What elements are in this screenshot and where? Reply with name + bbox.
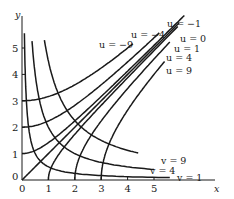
- label-v-1: v = 1: [176, 172, 202, 183]
- y-tick-label: 3: [12, 96, 18, 107]
- x-tick-label: 2: [72, 183, 78, 194]
- label-u-minus-1: u = −1: [167, 18, 201, 29]
- plot-area: 012345012345 x y u = −1 u = −4 u = −9 u …: [0, 0, 234, 199]
- y-axis-label: y: [14, 9, 21, 20]
- x-tick-label: 4: [125, 183, 131, 194]
- label-u-9: u = 9: [166, 65, 192, 76]
- x-axis-label: x: [214, 183, 220, 194]
- label-u-4: u = 4: [166, 52, 192, 63]
- x-tick-label: 5: [151, 183, 157, 194]
- y-tick-label: 0: [12, 171, 18, 182]
- label-v-4: v = 4: [149, 165, 175, 176]
- x-tick-label: 3: [98, 183, 104, 194]
- x-tick-label: 0: [19, 183, 25, 194]
- y-tick-label: 5: [12, 43, 18, 54]
- y-tick-label: 2: [12, 122, 18, 133]
- hyperbola-grid-figure: 012345012345 x y u = −1 u = −4 u = −9 u …: [0, 0, 234, 199]
- x-tick-label: 1: [45, 183, 51, 194]
- label-u-minus-4: u = −4: [131, 29, 165, 40]
- curve-u-9: [101, 62, 164, 181]
- label-u-minus-9: u = −9: [99, 39, 133, 50]
- y-tick-label: 1: [12, 149, 18, 160]
- y-tick-label: 4: [12, 69, 18, 80]
